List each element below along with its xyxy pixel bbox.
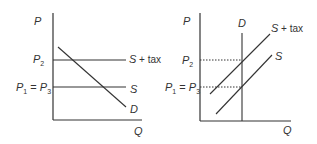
right-panel: P Q D P2 P1 = P3 S + tax S <box>165 13 303 136</box>
right-y-axis-label: P <box>183 15 191 27</box>
right-s-tax-label: S + tax <box>271 22 303 34</box>
right-p2-label: P2 <box>182 54 193 68</box>
right-s-label: S <box>275 50 283 62</box>
left-s-label: S <box>130 83 138 95</box>
left-p2-label: P2 <box>33 53 44 67</box>
left-p1-p3-label: P1 = P3 <box>16 81 51 95</box>
right-d-label: D <box>238 17 246 29</box>
left-x-axis-label: Q <box>134 125 143 137</box>
left-panel: P Q P2 P1 = P3 S + tax S D <box>16 13 161 137</box>
left-y-axis-label: P <box>34 15 42 27</box>
right-s-tax-curve <box>210 34 270 94</box>
left-d-curve <box>58 47 126 107</box>
left-s-tax-label: S + tax <box>129 53 161 65</box>
right-s-curve <box>216 55 272 114</box>
left-d-label: D <box>130 103 138 115</box>
right-p1-p3-label: P1 = P3 <box>165 81 200 95</box>
tax-incidence-diagram: P Q P2 P1 = P3 S + tax S D P Q D P2 P1 =… <box>0 0 317 144</box>
right-x-axis-label: Q <box>283 124 292 136</box>
